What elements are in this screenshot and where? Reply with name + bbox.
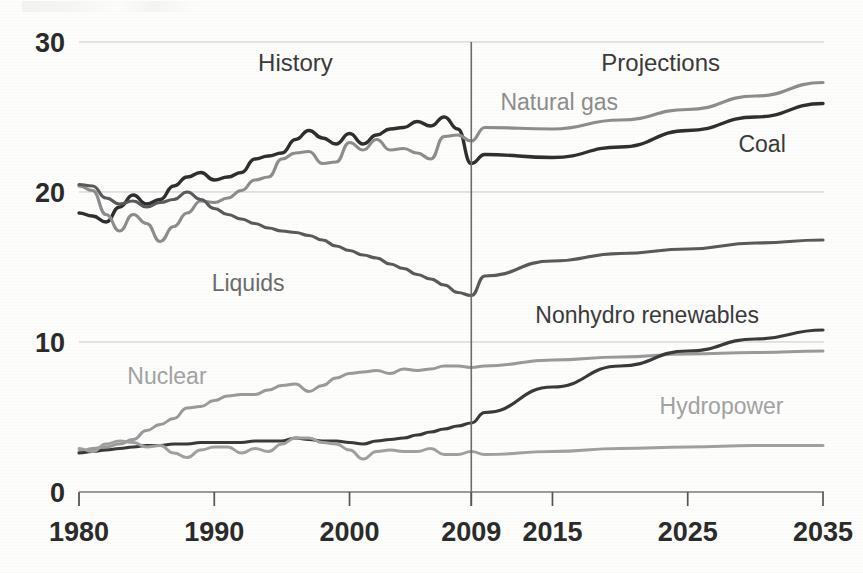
annotation-hydropower: Hydropower <box>660 393 784 419</box>
x-tick-label: 2025 <box>658 517 718 547</box>
annotation-coal: Coal <box>738 131 785 157</box>
x-tick-label: 1990 <box>184 517 244 547</box>
series-line-hydropower <box>79 438 823 459</box>
annotation-projections: Projections <box>601 49 720 76</box>
series-line-natural-gas <box>79 83 823 242</box>
series-line-coal <box>79 104 823 223</box>
energy-consumption-chart: 01020301980199020002009201520252035 Hist… <box>0 0 863 573</box>
chart-plot-area: 01020301980199020002009201520252035 Hist… <box>0 0 863 573</box>
axis-group <box>79 492 824 506</box>
annotation-liquids: Liquids <box>212 270 285 296</box>
series-line-liquids <box>79 185 823 296</box>
annotation-nonhydro-renewables: Nonhydro renewables <box>535 302 759 328</box>
x-tick-label: 2009 <box>441 517 501 547</box>
y-tick-label: 10 <box>35 328 65 358</box>
x-tick-label: 1980 <box>49 517 109 547</box>
series-annotations-group: HistoryProjectionsNatural gasCoalLiquids… <box>127 49 785 420</box>
annotation-natural-gas: Natural gas <box>500 89 618 115</box>
y-tick-label: 0 <box>50 478 65 508</box>
annotation-nuclear: Nuclear <box>127 363 207 389</box>
y-tick-label: 20 <box>35 178 65 208</box>
annotation-history: History <box>258 49 333 76</box>
x-tick-label: 2015 <box>522 517 582 547</box>
y-tick-label: 30 <box>35 28 65 58</box>
tick-labels-group: 01020301980199020002009201520252035 <box>35 28 853 547</box>
x-tick-label: 2000 <box>320 517 380 547</box>
x-tick-label: 2035 <box>793 517 853 547</box>
series-line-nonhydro-renewables <box>79 330 823 453</box>
